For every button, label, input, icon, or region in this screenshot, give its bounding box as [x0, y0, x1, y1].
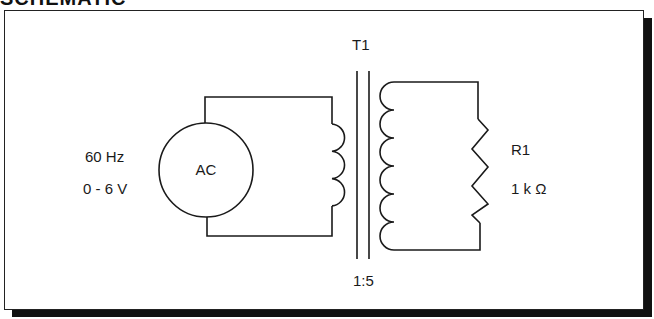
secondary-bottom-wire	[394, 223, 480, 250]
resistor-symbol	[472, 119, 488, 223]
frequency-label: 60 Hz	[85, 148, 124, 165]
primary-top-wire	[205, 97, 332, 124]
resistor-value-label: 1 k Ω	[511, 180, 546, 197]
circuit-diagram: AC 60 Hz 0 - 6 V T1 1:5 R1 1 k Ω	[0, 0, 654, 319]
ac-source-label: AC	[196, 161, 217, 178]
secondary-top-wire	[394, 82, 478, 119]
transformer-ratio-label: 1:5	[353, 272, 374, 289]
primary-coil	[332, 124, 345, 206]
transformer-name-label: T1	[352, 36, 370, 53]
primary-bottom-wire	[207, 206, 332, 236]
voltage-label: 0 - 6 V	[83, 180, 127, 197]
resistor-name-label: R1	[511, 141, 530, 158]
secondary-coil	[380, 82, 394, 250]
